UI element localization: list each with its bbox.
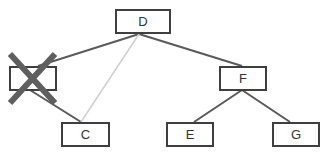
node-d: D bbox=[115, 9, 171, 34]
edge-d-to-f bbox=[139, 34, 242, 66]
node-c-label: C bbox=[81, 127, 90, 142]
node-e-label: E bbox=[186, 127, 195, 142]
node-c: C bbox=[61, 122, 110, 147]
node-g-label: G bbox=[291, 127, 301, 142]
edge-d-to-deleted bbox=[38, 34, 139, 66]
node-e: E bbox=[166, 122, 214, 147]
node-f-label: F bbox=[239, 71, 247, 86]
node-d-label: D bbox=[138, 14, 147, 29]
edge-deleted-to-c bbox=[30, 90, 81, 122]
node-deleted bbox=[9, 66, 57, 91]
node-g: G bbox=[272, 122, 320, 147]
node-f: F bbox=[219, 66, 267, 91]
edge-d-to-c-light bbox=[81, 34, 139, 122]
edge-f-to-g bbox=[242, 90, 290, 122]
edge-f-to-e bbox=[194, 90, 242, 122]
